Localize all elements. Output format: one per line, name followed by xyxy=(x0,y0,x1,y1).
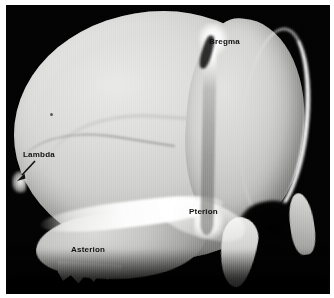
label-asterion: Asterion xyxy=(71,246,105,254)
skull-base-shadow xyxy=(6,249,330,294)
parietal-fleck xyxy=(50,113,53,116)
label-bregma: Bregma xyxy=(209,38,240,46)
skull-landmark-figure: Bregma Lambda Pterion Asterion xyxy=(0,0,334,298)
label-pterion: Pterion xyxy=(189,208,218,216)
photographic-plate: Bregma Lambda Pterion Asterion xyxy=(6,5,330,294)
label-lambda: Lambda xyxy=(23,151,55,159)
lambda-landmark-mark xyxy=(12,171,26,193)
